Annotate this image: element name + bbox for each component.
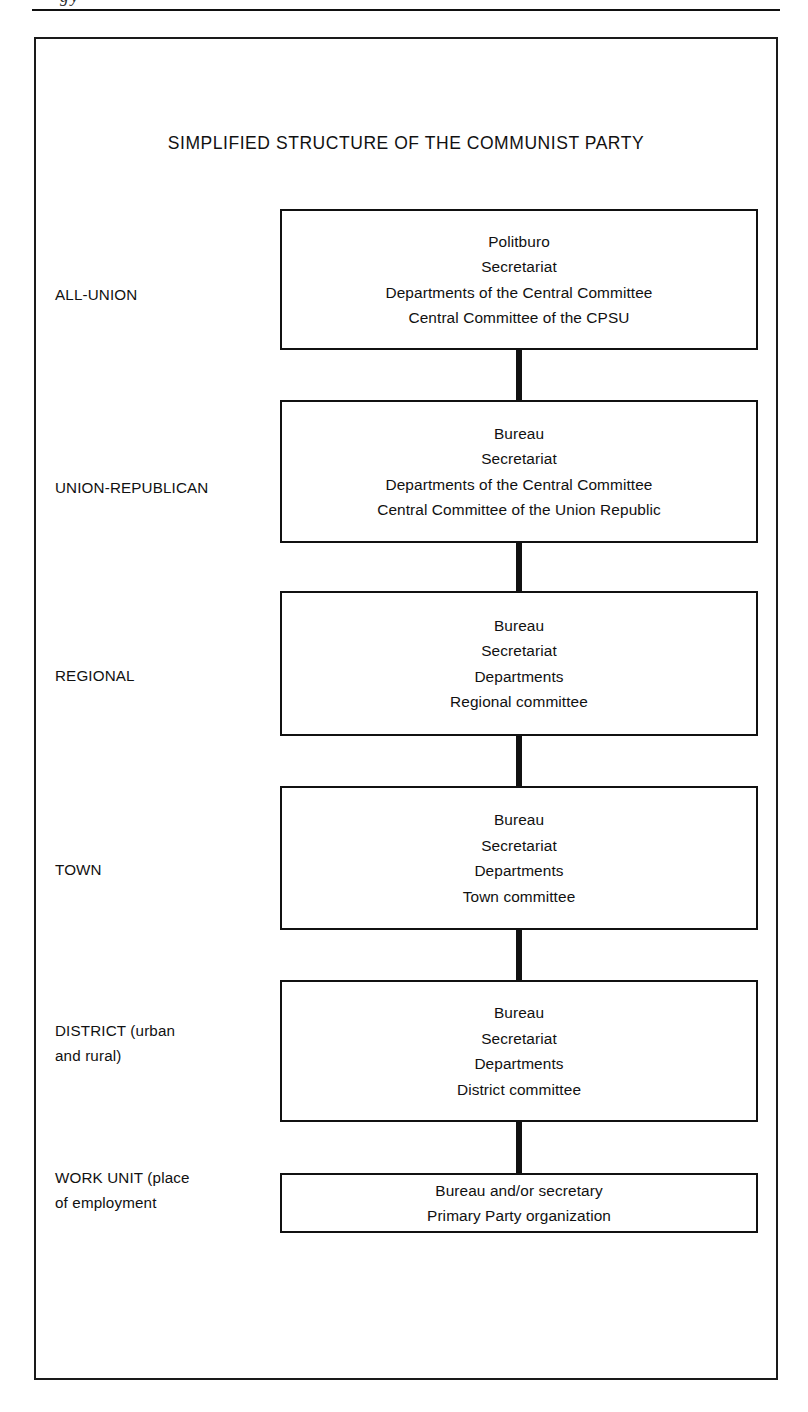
page-top-scan-artifact: gy: [0, 0, 808, 20]
node-line: Bureau: [494, 613, 544, 639]
connector-town-to-district: [516, 930, 522, 980]
row-label-line: and rural): [55, 1043, 270, 1068]
node-box-work-unit: Bureau and/or secretary Primary Party or…: [280, 1173, 758, 1233]
node-line: Central Committee of the Union Republic: [377, 497, 661, 523]
row-label-line: UNION-REPUBLICAN: [55, 475, 270, 500]
row-label-regional: REGIONAL: [55, 663, 270, 688]
row-label-line: WORK UNIT (place: [55, 1165, 270, 1190]
row-label-line: DISTRICT (urban: [55, 1018, 270, 1043]
node-line: Bureau and/or secretary: [435, 1178, 602, 1204]
row-label-line: of employment: [55, 1190, 270, 1215]
row-label-line: TOWN: [55, 857, 270, 882]
row-label-union-republican: UNION-REPUBLICAN: [55, 475, 270, 500]
node-line: Bureau: [494, 421, 544, 447]
diagram-title: SIMPLIFIED STRUCTURE OF THE COMMUNIST PA…: [34, 133, 778, 154]
horizontal-rule: [32, 9, 780, 11]
node-line: Departments of the Central Committee: [385, 280, 652, 306]
row-label-all-union: ALL-UNION: [55, 282, 270, 307]
node-line: Secretariat: [481, 638, 557, 664]
node-line: Secretariat: [481, 446, 557, 472]
node-line: Departments: [474, 858, 563, 884]
node-line: Bureau: [494, 807, 544, 833]
node-line: Primary Party organization: [427, 1203, 611, 1229]
node-line: Departments: [474, 1051, 563, 1077]
row-label-line: ALL-UNION: [55, 282, 270, 307]
node-box-all-union: Politburo Secretariat Departments of the…: [280, 209, 758, 350]
node-box-town: Bureau Secretariat Departments Town comm…: [280, 786, 758, 930]
row-label-town: TOWN: [55, 857, 270, 882]
connector-regional-to-town: [516, 736, 522, 786]
node-line: Departments of the Central Committee: [385, 472, 652, 498]
node-line: Bureau: [494, 1000, 544, 1026]
node-line: Departments: [474, 664, 563, 690]
node-line: Regional committee: [450, 689, 588, 715]
row-label-district: DISTRICT (urban and rural): [55, 1018, 270, 1068]
node-box-district: Bureau Secretariat Departments District …: [280, 980, 758, 1122]
row-label-line: REGIONAL: [55, 663, 270, 688]
node-line: Central Committee of the CPSU: [408, 305, 629, 331]
connector-union-republican-to-regional: [516, 543, 522, 591]
node-line: Politburo: [488, 229, 550, 255]
cut-off-running-head: gy: [0, 0, 808, 9]
node-line: Town committee: [463, 884, 576, 910]
node-box-regional: Bureau Secretariat Departments Regional …: [280, 591, 758, 736]
node-box-union-republican: Bureau Secretariat Departments of the Ce…: [280, 400, 758, 543]
row-label-work-unit: WORK UNIT (place of employment: [55, 1165, 270, 1215]
node-line: District committee: [457, 1077, 581, 1103]
connector-all-union-to-union-republican: [516, 350, 522, 400]
node-line: Secretariat: [481, 1026, 557, 1052]
connector-district-to-work-unit: [516, 1122, 522, 1173]
node-line: Secretariat: [481, 833, 557, 859]
node-line: Secretariat: [481, 254, 557, 280]
